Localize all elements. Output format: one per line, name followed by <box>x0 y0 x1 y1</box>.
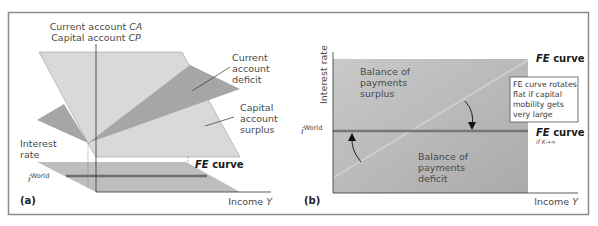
label-fe-curve-b: FE curve <box>536 53 585 64</box>
label-fe-curve-flat: FE curve <box>536 127 585 138</box>
y-axis-label-b: Interest rate <box>318 45 329 104</box>
label-fe-flat-condition: if K→∞ <box>536 138 556 145</box>
x-axis-label-b: Income Y <box>534 196 579 207</box>
axis-label-capital-account: Capital account CP <box>51 32 141 43</box>
axis-label-current-account: Current account CA <box>50 21 143 32</box>
x-axis-label-a: Income Y <box>228 196 273 207</box>
panel-tag-a: (a) <box>20 195 36 206</box>
panel-tag-b: (b) <box>304 195 320 206</box>
fe-curve-figure: Current account CA Capital account CP Cu… <box>0 0 598 226</box>
label-fe-curve-a: FE curve <box>195 159 244 170</box>
